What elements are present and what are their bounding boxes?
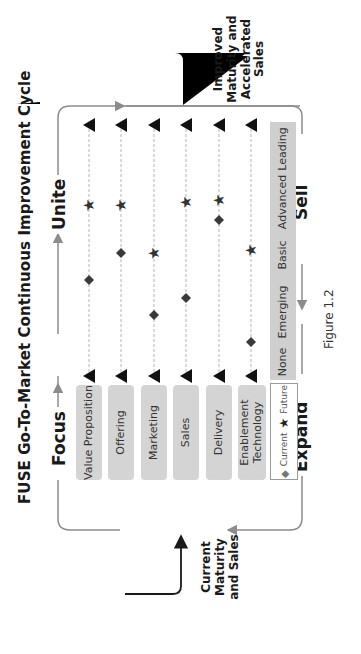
diagram-canvas: FUSE Go-To-Market Continuous Improvement… <box>0 0 361 654</box>
star-icon: ★ <box>112 199 130 212</box>
maturity-rows <box>0 0 361 654</box>
figure-caption: Figure 1.2 <box>322 289 336 349</box>
star-icon: ★ <box>242 244 260 257</box>
star-icon: ★ <box>145 247 163 260</box>
star-icon: ★ <box>210 194 228 207</box>
star-icon: ★ <box>177 196 195 209</box>
star-icon: ★ <box>80 199 98 212</box>
